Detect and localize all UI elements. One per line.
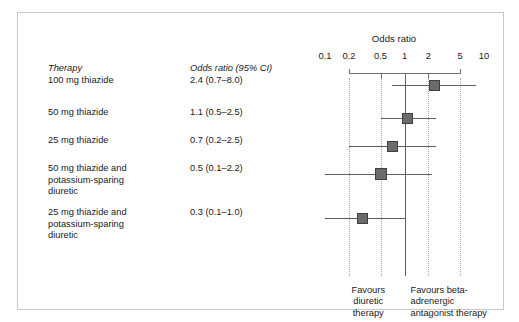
- point-estimate-marker: [375, 168, 387, 180]
- footer-label-right: Favours beta-adrenergicantagonist therap…: [411, 285, 519, 319]
- gridline-5: [460, 78, 461, 276]
- therapy-label: 100 mg thiazide: [48, 75, 183, 87]
- therapy-label: 50 mg thiazide andpotassium-sparingdiure…: [48, 163, 183, 198]
- forest-plot-figure: TherapyOdds ratio (95% CI)100 mg thiazid…: [17, 12, 504, 310]
- column-header-therapy: Therapy: [48, 63, 183, 75]
- tick-label-0-2: 0.2: [342, 50, 355, 61]
- axis-tick-mark: [381, 73, 382, 78]
- axis-end-cap: [460, 69, 461, 74]
- gridline-0-2: [349, 78, 350, 276]
- tick-label-1: 1: [402, 50, 407, 61]
- therapy-label: 25 mg thiazide andpotassium-sparingdiure…: [48, 207, 183, 242]
- odds-ratio-value: 0.3 (0.1–1.0): [190, 207, 295, 219]
- point-estimate-marker: [357, 213, 368, 224]
- axis-tick-mark: [428, 73, 429, 78]
- point-estimate-marker: [387, 141, 398, 152]
- point-estimate-marker: [429, 80, 440, 91]
- tick-label-5: 5: [457, 50, 462, 61]
- tick-label-10: 10: [479, 50, 489, 61]
- odds-ratio-value: 0.5 (0.1–2.2): [190, 163, 295, 175]
- axis-tick-mark: [405, 73, 406, 78]
- therapy-label: 25 mg thiazide: [48, 135, 183, 147]
- tick-label-2: 2: [426, 50, 431, 61]
- axis-title: Odds ratio: [306, 33, 482, 44]
- tick-label-0-1: 0.1: [318, 50, 331, 61]
- x-axis-tick-labels: 0.10.20.512510: [306, 50, 496, 62]
- point-estimate-marker: [402, 113, 413, 124]
- gridline-2: [428, 78, 429, 276]
- column-header-odds-ratio: Odds ratio (95% CI): [190, 63, 295, 75]
- axis-end-cap: [349, 69, 350, 74]
- odds-ratio-value: 0.7 (0.2–2.5): [190, 135, 295, 147]
- tick-label-0-5: 0.5: [374, 50, 387, 61]
- odds-ratio-value: 2.4 (0.7–8.0): [190, 75, 295, 87]
- footer-label-left: Favoursdiuretictherapy: [336, 285, 400, 319]
- odds-ratio-value: 1.1 (0.5–2.5): [190, 107, 295, 119]
- therapy-label: 50 mg thiazide: [48, 107, 183, 119]
- forest-plot-area: Odds ratio 0.10.20.512510 Favoursdiureti…: [306, 33, 496, 303]
